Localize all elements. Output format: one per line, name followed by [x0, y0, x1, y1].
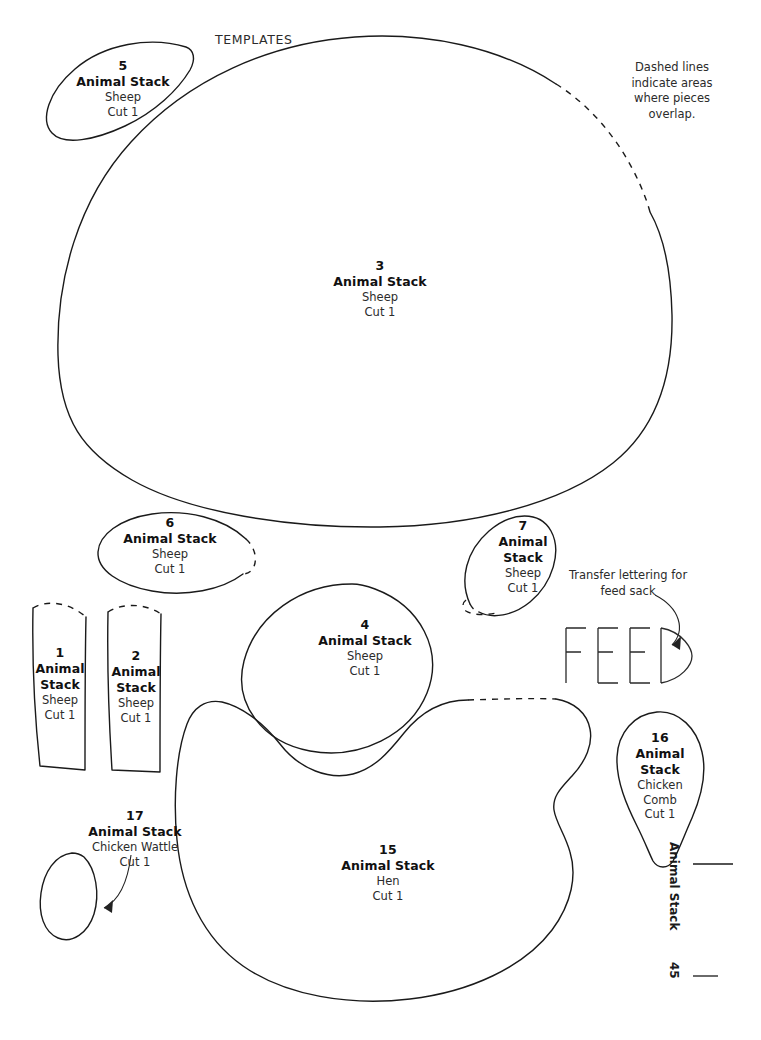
piece-17-title: Animal Stack — [60, 824, 210, 840]
piece-7-cut: Cut 1 — [471, 581, 575, 596]
piece-5-part: Sheep — [58, 90, 188, 105]
piece-6-label: 6 Animal Stack Sheep Cut 1 — [104, 515, 236, 576]
footer-page-number: 45 — [667, 962, 681, 1002]
piece-17-cut: Cut 1 — [60, 855, 210, 870]
feed-lettering-artwork — [566, 628, 692, 683]
piece-16-label: 16 Animal Stack Chicken Comb Cut 1 — [615, 730, 705, 822]
page-title: TEMPLATES — [215, 32, 293, 47]
piece-7-number: 7 — [471, 518, 575, 534]
piece-5-cut: Cut 1 — [58, 105, 188, 120]
piece-6-part: Sheep — [104, 547, 236, 562]
piece-16-number: 16 — [615, 730, 705, 746]
piece-16-part-line-1: Chicken — [615, 778, 705, 793]
piece-5-number: 5 — [58, 58, 188, 74]
overlap-note: Dashed lines indicate areas where pieces… — [612, 60, 732, 122]
piece-16-cut: Cut 1 — [615, 807, 705, 822]
piece-4-label: 4 Animal Stack Sheep Cut 1 — [290, 617, 440, 678]
piece-6-title: Animal Stack — [104, 531, 236, 547]
piece-7-title-line-1: Animal — [471, 534, 575, 550]
piece-7-label: 7 Animal Stack Sheep Cut 1 — [471, 518, 575, 595]
template-sheet: TEMPLATES Dashed lines indicate areas wh… — [0, 0, 761, 1040]
footer-rule — [693, 864, 733, 976]
piece-17-part: Chicken Wattle — [60, 840, 210, 855]
piece-3-label: 3 Animal Stack Sheep Cut 1 — [305, 258, 455, 319]
piece-4-title: Animal Stack — [290, 633, 440, 649]
feed-leader-arrow — [655, 595, 681, 650]
piece-16-part-line-2: Comb — [615, 793, 705, 808]
piece-15-part: Hen — [313, 874, 463, 889]
piece-2-part: Sheep — [91, 696, 181, 711]
piece-4-cut: Cut 1 — [290, 664, 440, 679]
piece-2-number: 2 — [91, 648, 181, 664]
piece-6-number: 6 — [104, 515, 236, 531]
piece-17-number: 17 — [60, 808, 210, 824]
piece-3-title: Animal Stack — [305, 274, 455, 290]
piece-15-cut: Cut 1 — [313, 889, 463, 904]
piece-16-title-line-1: Animal — [615, 746, 705, 762]
piece-3-cut: Cut 1 — [305, 305, 455, 320]
piece-7-part: Sheep — [471, 566, 575, 581]
piece-2-title-line-2: Stack — [91, 680, 181, 696]
piece-4-number: 4 — [290, 617, 440, 633]
piece-2-cut: Cut 1 — [91, 711, 181, 726]
piece-3-part: Sheep — [305, 290, 455, 305]
piece-15-label: 15 Animal Stack Hen Cut 1 — [313, 842, 463, 903]
piece-5-label: 5 Animal Stack Sheep Cut 1 — [58, 58, 188, 119]
piece-2-label: 2 Animal Stack Sheep Cut 1 — [91, 648, 181, 725]
piece-15-number: 15 — [313, 842, 463, 858]
piece-4-part: Sheep — [290, 649, 440, 664]
piece-17-label: 17 Animal Stack Chicken Wattle Cut 1 — [60, 808, 210, 869]
piece-2-title-line-1: Animal — [91, 664, 181, 680]
piece-3-number: 3 — [305, 258, 455, 274]
footer-book-title: Animal Stack — [667, 842, 681, 952]
piece-16-title-line-2: Stack — [615, 762, 705, 778]
piece-5-title: Animal Stack — [58, 74, 188, 90]
transfer-lettering-note: Transfer lettering for feed sack — [568, 568, 688, 599]
piece-15-title: Animal Stack — [313, 858, 463, 874]
piece-6-cut: Cut 1 — [104, 562, 236, 577]
piece-7-title-line-2: Stack — [471, 550, 575, 566]
